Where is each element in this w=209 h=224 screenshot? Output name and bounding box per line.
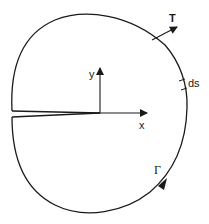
traction-label: T xyxy=(169,12,176,24)
ds-label: ds xyxy=(188,77,200,89)
x-axis-label: x xyxy=(139,119,145,131)
crack-upper-face xyxy=(12,111,100,113)
crack-lower-face xyxy=(12,113,100,117)
contour-gamma-label: Γ xyxy=(154,163,161,177)
y-axis-label: y xyxy=(89,68,95,80)
diagram-canvas: T ds y x Γ xyxy=(0,0,209,224)
traction-vector-arrow xyxy=(152,27,177,40)
